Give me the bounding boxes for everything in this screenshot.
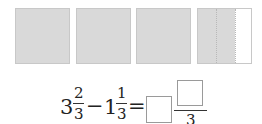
equation: 3 2 3 − 1 1 3 = 3: [0, 0, 262, 124]
term2-numerator: 1: [117, 86, 127, 101]
term2-whole: 1: [104, 97, 117, 118]
answer-whole-box[interactable]: [146, 96, 172, 123]
term1-denominator: 3: [74, 107, 84, 122]
term1-numerator: 2: [74, 86, 84, 101]
term1-whole: 3: [60, 97, 73, 118]
answer-denominator: 3: [186, 113, 196, 124]
term2-fraction-line: [116, 103, 127, 104]
answer-numerator-box[interactable]: [177, 80, 203, 106]
term1-fraction-line: [73, 103, 84, 104]
equals-sign: =: [128, 96, 146, 117]
minus-sign: −: [86, 96, 104, 117]
term2-denominator: 3: [117, 107, 127, 122]
